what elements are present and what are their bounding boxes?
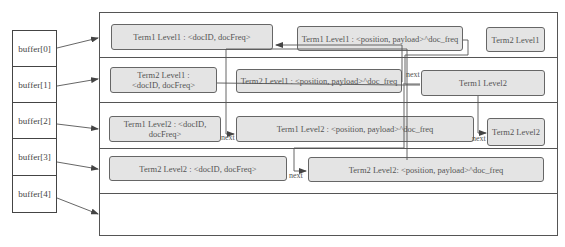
node-label: Term1 Level2 : <docID, docFreq> [110, 119, 220, 139]
buffer-cell-0: buffer[0] [12, 30, 57, 67]
node-term2-level1-docid: Term2 Level1 : <docID, docFreq> [110, 67, 217, 93]
buffer-cell-3: buffer[3] [12, 138, 57, 176]
node-term2-level1: Term2 Level1 [486, 27, 545, 52]
buffer-label: buffer[4] [18, 189, 50, 199]
node-label: Term2 Level1 [492, 35, 540, 45]
node-label: Term1 Level1 : <position, payload>^doc_f… [302, 34, 459, 44]
node-label: Term2 Level2 : <docID, docFreq> [139, 164, 256, 174]
buffer-cell-1: buffer[1] [12, 66, 57, 103]
node-label: Term1 Level2 [459, 78, 507, 88]
row-divider [99, 102, 558, 103]
next-pointer-label: next [472, 134, 486, 143]
buffer-cell-2: buffer[2] [12, 102, 57, 139]
node-label: Term2 Level1 : <docID, docFreq> [132, 70, 195, 90]
buffer-label: buffer[3] [18, 152, 50, 162]
node-term2-level2: Term2 Level2 [487, 118, 545, 146]
node-label: Term1 Level2 : <position, payload>^doc_f… [277, 124, 434, 134]
node-label: Term2 Level2: <position, payload>^doc_fr… [349, 165, 504, 175]
next-pointer-label: next [406, 70, 420, 79]
node-term1-level1-position: Term1 Level1 : <position, payload>^doc_f… [297, 26, 463, 51]
buffer-label: buffer[0] [18, 44, 50, 54]
row-divider [99, 57, 558, 58]
next-pointer-label: next [221, 133, 235, 142]
node-label: Term2 Level2 [492, 127, 540, 137]
node-term1-level2-docid: Term1 Level2 : <docID, docFreq> [109, 116, 221, 142]
buffer-label: buffer[1] [18, 80, 50, 90]
node-label: Term2 Level1 : <position, payload>^doc_f… [241, 76, 398, 86]
row-divider [99, 193, 558, 194]
row-divider [99, 148, 558, 149]
node-term1-level1-docid: Term1 Level1 : <docID, docFreq> [111, 24, 273, 50]
node-term2-level2-docid: Term2 Level2 : <docID, docFreq> [109, 156, 287, 181]
next-pointer-label: next [289, 171, 303, 180]
node-term1-level2-position: Term1 Level2 : <position, payload>^doc_f… [236, 116, 474, 142]
buffer-cell-4: buffer[4] [12, 175, 57, 213]
buffer-label: buffer[2] [18, 116, 50, 126]
node-term1-level2: Term1 Level2 [421, 70, 545, 96]
node-term2-level1-position: Term2 Level1 : <position, payload>^doc_f… [236, 69, 402, 93]
node-label: Term1 Level1 : <docID, docFreq> [133, 32, 250, 42]
node-term2-level2-position: Term2 Level2: <position, payload>^doc_fr… [308, 157, 544, 182]
